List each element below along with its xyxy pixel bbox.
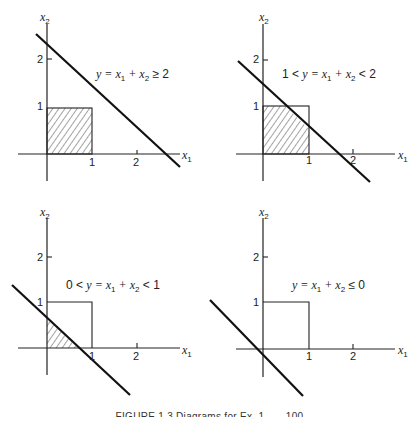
y-tick-label-1: 1 [253,101,259,112]
x-tick-label-1: 1 [306,351,312,362]
equation-label: 0 < y = x1 + x2 < 1 [66,278,160,294]
y-axis-label: x2 [259,12,269,27]
y-axis-label: x2 [40,207,50,222]
y-tick-label-2: 2 [37,54,43,65]
equation-label: y = x1 + x2 ≤ 0 [292,278,365,294]
equation-label: 1 < y = x1 + x2 < 2 [282,67,376,83]
y-tick-label-1: 1 [37,101,43,112]
x-tick-label-2: 2 [350,155,356,166]
x-tick-label-1: 1 [89,157,95,168]
x-tick-label-1: 1 [89,351,95,362]
shaded-unit-square [47,108,92,154]
y-axis-label: x2 [259,207,269,222]
y-tick-label-1: 1 [37,297,43,308]
y-tick-label-1: 1 [253,297,259,308]
panel-bottom-right [210,218,395,396]
equation-label: y = x1 + x2 ≥ 2 [96,67,169,83]
panel-top-right [236,24,395,182]
x-tick-label-2: 2 [350,351,356,362]
diagram-canvas [0,0,419,425]
x-axis-label: x1 [398,345,408,360]
x-axis-label: x1 [398,150,408,165]
y-axis-label: x2 [40,12,50,27]
shaded-region [263,106,309,154]
y-tick-label-2: 2 [253,252,259,263]
x-axis-label: x1 [182,345,192,360]
x-tick-label-2: 2 [133,157,139,168]
y-tick-label-2: 2 [253,54,259,65]
constraint-line [210,300,303,396]
x-axis-label: x1 [182,150,192,165]
x-tick-label-2: 2 [133,351,139,362]
x-tick-label-1: 1 [306,155,312,166]
unit-square [263,302,309,349]
y-tick-label-2: 2 [37,252,43,263]
